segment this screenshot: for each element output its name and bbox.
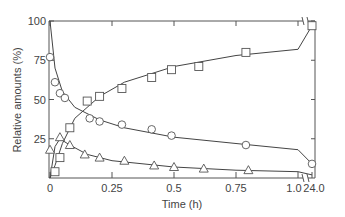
square-marker bbox=[83, 97, 91, 105]
circle-marker bbox=[118, 121, 126, 129]
x-tick-label: 0.25 bbox=[101, 182, 122, 194]
y-axis-label: Relative amounts (%) bbox=[11, 47, 23, 152]
square-marker bbox=[118, 85, 126, 93]
triangle-marker bbox=[244, 166, 253, 174]
square-marker bbox=[168, 66, 176, 74]
square-marker bbox=[66, 124, 74, 132]
square-marker bbox=[308, 22, 316, 30]
x-tick-label: 0 bbox=[47, 182, 53, 194]
chart-canvas: 00.250.50.751.024.0255075100 Time (h) Re… bbox=[0, 0, 345, 217]
y-tick-label: 75 bbox=[34, 54, 46, 66]
relative-amounts-chart: 00.250.50.751.024.0255075100 Time (h) Re… bbox=[0, 0, 345, 217]
square-marker bbox=[56, 154, 64, 162]
x-tick-label: 0.5 bbox=[166, 182, 181, 194]
circle-marker bbox=[51, 78, 59, 86]
circle-marker bbox=[148, 126, 156, 134]
square-marker bbox=[195, 63, 203, 71]
x-axis-label: Time (h) bbox=[162, 198, 203, 210]
circle-marker bbox=[242, 141, 250, 149]
data-markers bbox=[46, 22, 317, 176]
square-marker bbox=[51, 168, 59, 176]
circle-marker bbox=[168, 132, 176, 140]
circle-marker bbox=[61, 94, 69, 102]
triangle-marker bbox=[46, 145, 55, 153]
triangle-marker bbox=[65, 141, 74, 149]
circle-marker bbox=[46, 53, 54, 61]
y-tick-label: 25 bbox=[34, 133, 46, 145]
x-tick-label: 0.75 bbox=[225, 182, 246, 194]
circles-fit-curve bbox=[50, 21, 312, 164]
y-tick-label: 50 bbox=[34, 94, 46, 106]
x-tick-label: 1.0 bbox=[286, 182, 301, 194]
x-tick-label: 24.0 bbox=[303, 182, 324, 194]
triangle-marker bbox=[55, 133, 64, 141]
square-marker bbox=[96, 92, 104, 100]
triangle-marker bbox=[120, 156, 129, 164]
square-marker bbox=[148, 74, 156, 82]
circle-marker bbox=[308, 160, 316, 168]
circle-marker bbox=[96, 118, 104, 126]
square-marker bbox=[242, 48, 250, 56]
circle-marker bbox=[86, 115, 94, 123]
y-tick-label: 100 bbox=[28, 15, 46, 27]
